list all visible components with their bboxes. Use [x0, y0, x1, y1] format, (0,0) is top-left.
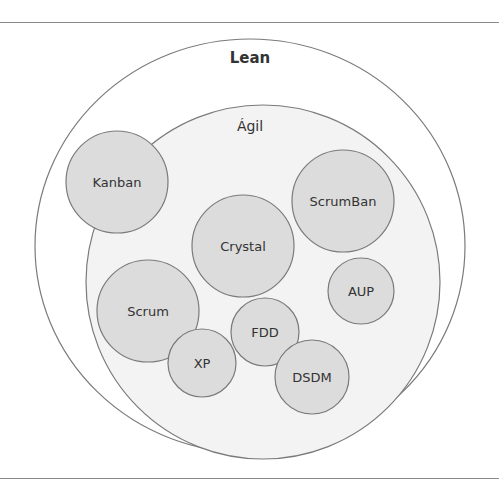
method-label: AUP: [348, 284, 374, 299]
method-dsdm: DSDM: [275, 340, 349, 414]
method-aup: AUP: [328, 258, 394, 324]
method-label: DSDM: [292, 370, 332, 385]
method-label: Kanban: [93, 175, 142, 190]
lean-label: Lean: [230, 49, 271, 67]
method-label: XP: [194, 356, 211, 371]
agil-label: Ágil: [237, 118, 263, 134]
method-label: Crystal: [220, 239, 266, 254]
method-crystal: Crystal: [192, 195, 294, 297]
method-kanban: Kanban: [66, 131, 168, 233]
method-label: ScrumBan: [310, 194, 377, 209]
lean-agile-diagram: Lean Ágil KanbanScrumBanCrystalAUPScrumF…: [0, 0, 499, 489]
method-label: FDD: [251, 325, 279, 340]
method-xp: XP: [168, 329, 236, 397]
method-label: Scrum: [127, 304, 169, 319]
method-scrumban: ScrumBan: [292, 150, 394, 252]
